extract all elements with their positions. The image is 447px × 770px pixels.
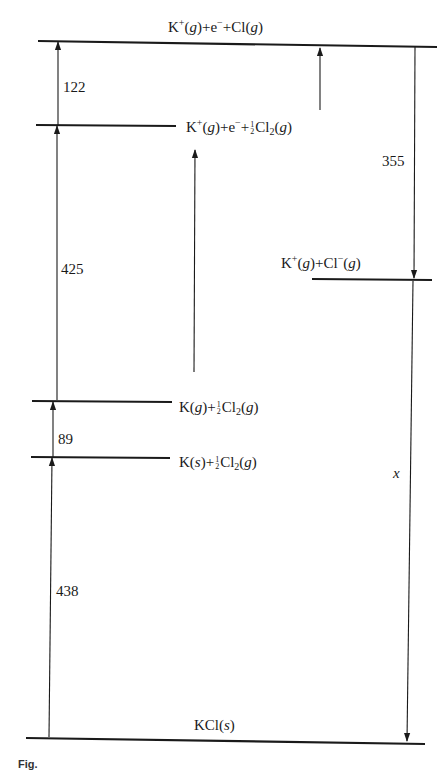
label-k-gas-level: K(g)+12Cl2(g)	[179, 400, 258, 415]
label-top-level: K+(g)+e−+Cl(g)	[168, 20, 263, 35]
level-top	[38, 41, 437, 47]
label-k-solid-level: K(s)+12Cl2(g)	[179, 455, 257, 470]
level-k-solid	[31, 457, 170, 458]
arrow-355	[414, 47, 415, 278]
fraction-half: 12	[215, 456, 219, 470]
fraction-half: 12	[250, 121, 254, 135]
value-x: x	[393, 466, 400, 481]
value-355: 355	[382, 154, 405, 169]
value-89: 89	[58, 432, 73, 447]
value-425: 425	[61, 262, 84, 277]
label-ionized-level: K+(g)+e−+12Cl2(g)	[186, 120, 292, 135]
arrow-438	[49, 458, 52, 737]
level-ionized	[36, 125, 176, 126]
figure-caption: Fig.	[18, 758, 38, 770]
level-kcl	[26, 738, 425, 744]
level-ion-pair	[312, 279, 432, 280]
value-438: 438	[56, 584, 79, 599]
label-ion-pair-level: K+(g)+Cl−(g)	[281, 256, 361, 271]
value-122: 122	[63, 80, 86, 95]
label-kcl-level: KCl(s)	[194, 718, 235, 733]
arrow-middle-long	[194, 150, 195, 372]
fraction-half: 12	[217, 401, 221, 415]
level-k-gas	[32, 401, 172, 402]
arrow-x	[407, 281, 413, 741]
